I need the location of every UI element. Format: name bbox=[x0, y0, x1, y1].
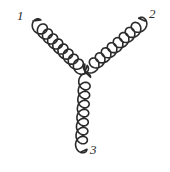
leg-label-2: 2 bbox=[149, 7, 156, 20]
leg-label-1: 1 bbox=[17, 9, 24, 22]
feynman-diagram-canvas: 1 2 3 bbox=[0, 0, 170, 172]
leg-label-3: 3 bbox=[90, 143, 97, 156]
diagram-background bbox=[0, 0, 170, 172]
feynman-diagram-svg bbox=[0, 0, 170, 172]
